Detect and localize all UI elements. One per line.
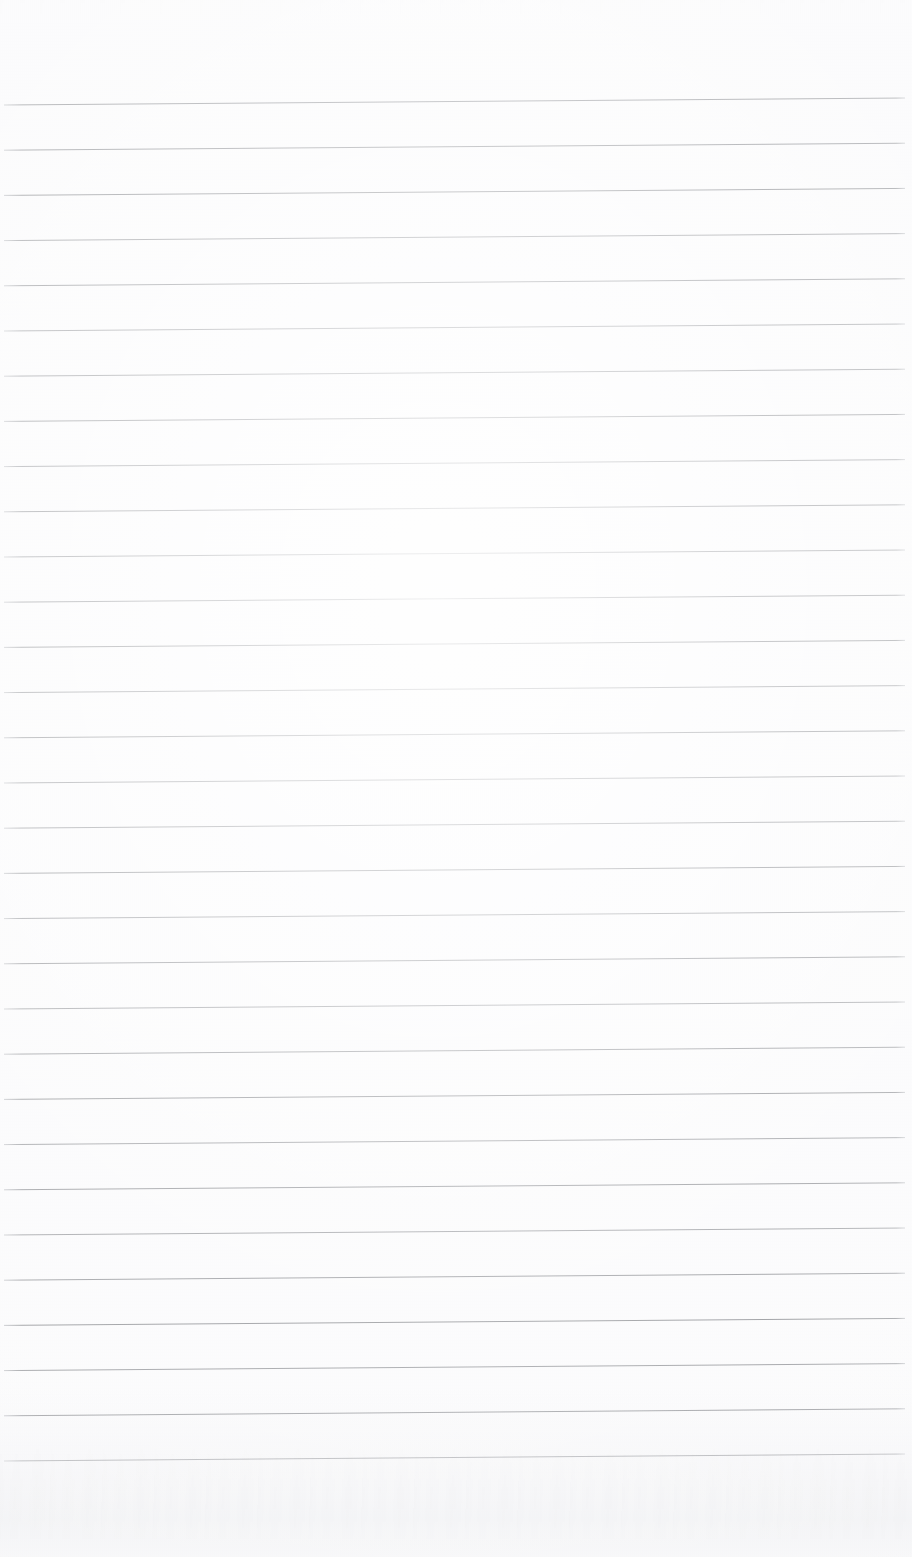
ruled-line <box>4 234 905 241</box>
ruled-line <box>4 1364 905 1371</box>
ruled-line <box>4 640 905 647</box>
ruled-line <box>4 505 905 512</box>
ruled-line <box>4 143 905 150</box>
ruled-line <box>4 460 905 467</box>
ruled-line <box>4 821 905 828</box>
ruled-line <box>4 1092 905 1099</box>
ruled-line <box>4 1228 905 1235</box>
ruled-line <box>4 1318 905 1325</box>
ruled-line <box>4 866 905 873</box>
ruled-line <box>4 98 905 105</box>
ruled-line <box>4 1273 905 1280</box>
ruled-line <box>4 1183 905 1190</box>
ruled-line <box>4 686 905 693</box>
ruled-line <box>4 957 905 964</box>
ruled-line <box>4 912 905 919</box>
ruled-line <box>4 324 905 331</box>
ruled-line <box>4 414 905 421</box>
scanned-page <box>0 0 912 1557</box>
ruled-line <box>4 1002 905 1009</box>
ruled-line <box>4 1047 905 1054</box>
ruled-line <box>4 279 905 286</box>
ruled-line <box>4 731 905 738</box>
ruled-line <box>4 550 905 557</box>
ruled-line <box>4 1454 905 1461</box>
ruled-line <box>4 1409 905 1416</box>
ruled-line <box>4 595 905 602</box>
ruled-lines-layer <box>0 0 912 1557</box>
ruled-lines <box>4 98 905 1461</box>
ruled-line <box>4 188 905 195</box>
ruled-line <box>4 776 905 783</box>
ruled-line <box>4 369 905 376</box>
ruled-line <box>4 1138 905 1145</box>
